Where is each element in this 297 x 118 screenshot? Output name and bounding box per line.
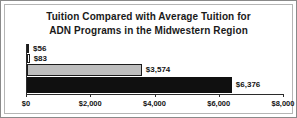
chart-title-line-1: Tuition Compared with Average Tuition fo… bbox=[5, 10, 292, 24]
bar-value-label-3: $3,574 bbox=[146, 65, 170, 74]
bar-3 bbox=[27, 64, 142, 76]
bar-value-label-4: $6,376 bbox=[236, 80, 260, 89]
x-tick-2 bbox=[155, 94, 156, 97]
x-tick-label-4: $8,000 bbox=[272, 99, 295, 108]
x-tick-4 bbox=[283, 94, 284, 97]
bar-value-label-2: $83 bbox=[34, 54, 47, 63]
x-tick-3 bbox=[219, 94, 220, 97]
x-tick-label-0: $0 bbox=[22, 99, 30, 108]
chart-title: Tuition Compared with Average Tuition fo… bbox=[5, 10, 292, 38]
chart-plot-frame: Tuition Compared with Average Tuition fo… bbox=[4, 4, 293, 114]
x-tick-1 bbox=[90, 94, 91, 97]
x-tick-label-2: $4,000 bbox=[143, 99, 166, 108]
bar-1 bbox=[27, 44, 29, 53]
bar-4 bbox=[27, 77, 232, 93]
plot-area: $56$83$3,574$6,376 $0$2,000$4,000$6,000$… bbox=[26, 43, 284, 95]
bar-2 bbox=[27, 54, 30, 63]
bar-value-label-1: $56 bbox=[33, 44, 46, 53]
x-tick-label-1: $2,000 bbox=[79, 99, 102, 108]
x-tick-0 bbox=[26, 94, 27, 97]
x-tick-label-3: $6,000 bbox=[207, 99, 230, 108]
chart-title-line-2: ADN Programs in the Midwestern Region bbox=[5, 24, 292, 38]
chart-container: Tuition Compared with Average Tuition fo… bbox=[0, 0, 297, 118]
